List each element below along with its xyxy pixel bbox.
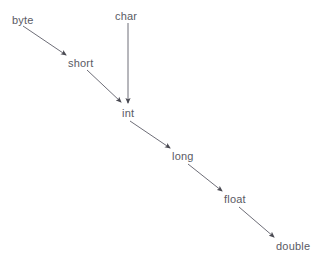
arrow-short-to-int <box>87 70 121 102</box>
node-byte: byte <box>12 14 34 26</box>
node-long: long <box>172 150 194 162</box>
node-short: short <box>68 57 93 69</box>
arrow-byte-to-short <box>23 26 66 55</box>
node-float: float <box>224 193 246 205</box>
node-char: char <box>115 10 137 22</box>
arrow-int-to-long <box>130 121 170 148</box>
arrow-long-to-float <box>188 164 222 191</box>
arrow-layer <box>0 0 321 270</box>
node-int: int <box>122 107 134 119</box>
arrow-float-to-double <box>239 207 274 237</box>
node-double: double <box>276 240 310 252</box>
diagram-canvas: byte char short int long float double <box>0 0 321 270</box>
